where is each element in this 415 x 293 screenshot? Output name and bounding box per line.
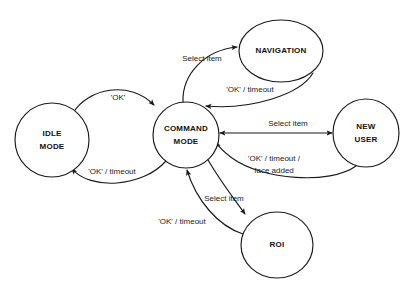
- node-navigation[interactable]: NAVIGATION: [239, 20, 323, 82]
- node-idle-mode-label-line1: IDLE: [42, 129, 61, 138]
- node-idle-mode-label-line2: MODE: [40, 142, 65, 151]
- edge-label-navigation-to-command: 'OK' / timeout: [226, 85, 274, 94]
- edge-label-command-to-roi: Select item: [204, 194, 244, 203]
- node-command-mode-label-line2: MODE: [174, 137, 199, 146]
- edge-label-newuser-to-command-line1: 'OK' / timeout /: [248, 154, 301, 163]
- node-navigation-label: NAVIGATION: [255, 46, 306, 55]
- node-new-user-shape[interactable]: [333, 99, 399, 167]
- node-new-user-label-line2: USER: [354, 135, 377, 144]
- edge-label-idle-to-command: 'OK': [111, 93, 126, 102]
- state-machine-diagram: IDLE MODE COMMAND MODE NAVIGATION NEW US…: [0, 0, 415, 293]
- edge-label-newuser-to-command-line2: face added: [254, 166, 294, 175]
- edge-label-command-to-idle: 'OK' / timeout: [88, 167, 136, 176]
- node-new-user-label-line1: NEW: [356, 122, 376, 131]
- node-new-user[interactable]: NEW USER: [333, 99, 399, 167]
- node-command-mode[interactable]: COMMAND MODE: [153, 102, 219, 168]
- edge-label-command-to-newuser: Select item: [268, 119, 308, 128]
- node-command-mode-label-line1: COMMAND: [164, 124, 208, 133]
- edge-label-roi-to-command: 'OK' / timeout: [158, 217, 206, 226]
- node-roi-label: ROI: [270, 240, 285, 249]
- node-command-mode-shape[interactable]: [153, 102, 219, 168]
- node-idle-mode-shape[interactable]: [15, 103, 89, 177]
- edge-label-command-to-navigation: Select item: [182, 54, 222, 63]
- node-idle-mode[interactable]: IDLE MODE: [15, 103, 89, 177]
- node-roi[interactable]: ROI: [241, 212, 313, 278]
